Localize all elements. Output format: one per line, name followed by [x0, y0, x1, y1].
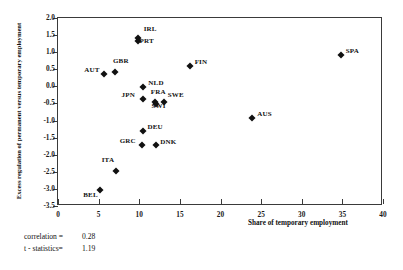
y-tick-label: 1.5 [46, 29, 55, 40]
y-tick-label: -3.5 [43, 200, 55, 211]
data-point-marker [139, 95, 146, 102]
correlation-label: correlation = [24, 231, 82, 243]
data-point-marker [186, 63, 193, 70]
tstatistic-label: t - statistics= [24, 243, 82, 255]
y-tick-label: -3.0 [43, 183, 55, 194]
data-point-marker [138, 142, 145, 149]
x-tick-mark [221, 199, 222, 204]
data-point-marker [140, 84, 147, 91]
y-tick-label: -2.5 [43, 166, 55, 177]
data-point-marker [112, 168, 119, 175]
data-point-marker [249, 114, 256, 121]
x-tick-mark [302, 199, 303, 204]
y-tick-label: -0.5 [43, 97, 55, 108]
x-tick-mark [58, 199, 59, 204]
x-tick-label: 0 [56, 210, 60, 219]
y-tick-label: 1.0 [46, 46, 55, 57]
x-tick-mark [261, 199, 262, 204]
data-point-marker [153, 142, 160, 149]
x-tick-label: 30 [298, 210, 305, 219]
x-tick-mark [180, 199, 181, 204]
data-point-label: SWE [168, 91, 184, 99]
data-point-label: BEL [83, 191, 98, 199]
data-point-label: DEU [148, 123, 163, 131]
y-tick-label: 0.0 [46, 80, 55, 91]
data-point-marker [139, 128, 146, 135]
data-point-label: NLD [148, 79, 163, 87]
data-point-marker [101, 71, 108, 78]
x-tick-label: 35 [339, 210, 346, 219]
statistics-block: correlation = 0.28 t - statistics= 1.19 [24, 231, 95, 254]
x-tick-label: 10 [136, 210, 143, 219]
y-tick-label: -2.0 [43, 149, 55, 160]
data-point-marker [111, 68, 118, 75]
tstatistic-row: t - statistics= 1.19 [24, 243, 95, 255]
x-tick-mark [139, 199, 140, 204]
data-point-label: FRA [151, 88, 166, 96]
data-point-label: FIN [195, 58, 208, 66]
x-tick-mark [342, 199, 343, 204]
scatter-chart-figure: Excess regulation of permanent versus te… [0, 0, 403, 270]
x-tick-label: 20 [217, 210, 224, 219]
data-point-label: AUT [84, 66, 99, 74]
data-point-label: GBR [113, 57, 129, 65]
x-tick-label: 15 [176, 210, 183, 219]
data-point-label: ITA [102, 156, 115, 164]
data-point-label: AUS [257, 110, 272, 118]
data-point-label: GRC [120, 137, 136, 145]
tstatistic-value: 1.19 [82, 243, 95, 255]
x-tick-label: 5 [97, 210, 101, 219]
y-axis-title: Excess regulation of permanent versus te… [6, 17, 32, 205]
correlation-row: correlation = 0.28 [24, 231, 95, 243]
data-point-label: JPN [122, 91, 135, 99]
correlation-value: 0.28 [82, 231, 95, 243]
data-point-label: PRT [139, 37, 153, 45]
y-tick-label: -1.0 [43, 115, 55, 126]
data-point-marker [337, 51, 344, 58]
x-tick-label: 40 [379, 210, 386, 219]
data-point-label: SPA [346, 47, 359, 55]
x-tick-mark [383, 199, 384, 204]
x-axis-title: Share of temporary employment [248, 219, 348, 227]
y-tick-label: 0.5 [46, 63, 55, 74]
y-tick-label: 2.0 [46, 12, 55, 23]
plot-area: 2.01.51.00.50.0-0.5-1.0-1.5-2.0-2.5-3.0-… [57, 17, 382, 205]
x-tick-mark [99, 199, 100, 204]
data-point-label: DNK [160, 138, 176, 146]
y-tick-label: -1.5 [43, 132, 55, 143]
x-tick-label: 25 [257, 210, 264, 219]
data-point-label: IRL [144, 25, 157, 33]
